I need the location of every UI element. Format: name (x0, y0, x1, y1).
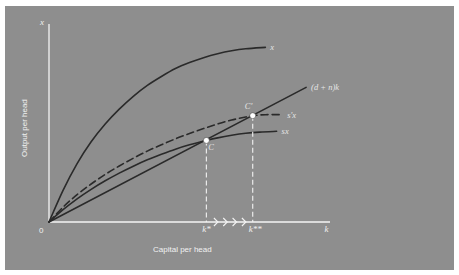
series-label-s-x: s'x (287, 110, 296, 120)
series-line-d-n-k (49, 87, 306, 222)
y-axis-symbol: x (39, 17, 44, 27)
x-tick-label-k: k (325, 224, 330, 234)
y-axis-title: Output per head (20, 99, 29, 157)
point-label-c-prime: C' (245, 101, 253, 111)
origin-label: 0 (39, 226, 44, 235)
x-axis-title: Capital per head (153, 245, 212, 254)
x-tick-label-k-star: k* (202, 224, 211, 234)
point-label-c: C (208, 142, 214, 152)
series-label-x: x (269, 42, 274, 52)
series-label-sx: sx (282, 126, 289, 136)
series-line-s-x (49, 115, 282, 222)
x-tick-label-k-double-star: k** (249, 224, 262, 234)
chart: x 0 Capital per head Output per head xs'… (0, 0, 459, 275)
series-label-d-n-k: (d + n)k (311, 82, 339, 92)
equilibrium-point-c-prime (250, 113, 256, 119)
